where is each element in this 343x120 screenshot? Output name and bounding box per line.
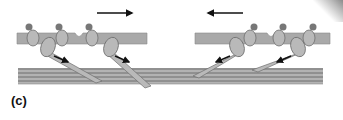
right-anchor-proteins: [244, 24, 317, 47]
page-curl-shadow: [313, 0, 343, 22]
panel-label: (c): [11, 93, 27, 108]
myosin-actin-diagram: [0, 0, 343, 120]
left-anchor-proteins: [26, 24, 99, 47]
actin-filament-bundle: [18, 68, 323, 84]
